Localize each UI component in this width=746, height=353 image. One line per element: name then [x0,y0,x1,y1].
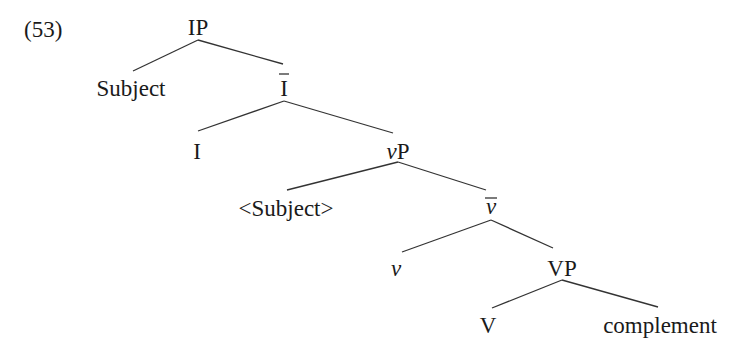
node-ip: IP [188,15,208,40]
edge-vp-complement [562,280,658,307]
example-number: (53) [24,17,62,42]
node-subject-trace: <Subject> [239,196,334,221]
edge-vp-subject-trace [287,162,398,190]
node-i-bar-label: I [280,76,288,101]
edge-ibar-vp [284,101,393,133]
node-vp: VP [547,256,576,281]
edge-vbar-v [402,220,491,252]
edge-vp-vbar [398,162,486,190]
node-v: V [480,313,497,338]
edge-vbar-vp [491,220,553,248]
node-i-head: I [193,139,201,164]
node-subject: Subject [97,76,167,101]
node-complement: complement [603,313,717,338]
node-little-vp: vP [386,139,409,164]
edge-ip-subject [133,40,198,71]
node-i-bar: I [279,74,289,101]
node-v-bar: v [485,194,497,219]
edge-vp-v [492,280,562,308]
node-v-head: v [391,256,402,281]
little-vp-p: P [397,139,410,164]
edge-ibar-i [198,101,284,131]
syntax-tree: (53) IP Subject I I vP <Subject> v v VP … [0,0,746,353]
edge-ip-ibar [198,40,283,64]
